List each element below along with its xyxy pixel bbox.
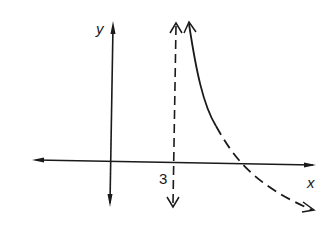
y-axis-label: y <box>95 20 105 37</box>
function-graph: y x 3 <box>0 0 331 226</box>
curve-solid-segment <box>189 24 216 126</box>
function-curve <box>184 22 314 212</box>
x-axis-label: x <box>306 174 315 191</box>
x-axis-right-arrow-icon <box>304 163 316 168</box>
y-axis-bottom-arrow-icon <box>108 194 113 207</box>
y-axis-top-arrow-icon <box>111 21 116 34</box>
curve-dashed-segment <box>216 126 312 210</box>
asymptote-value-label: 3 <box>159 170 167 187</box>
vertical-asymptote <box>167 23 182 207</box>
x-axis-left-arrow-icon <box>32 158 44 163</box>
y-axis <box>108 21 116 207</box>
